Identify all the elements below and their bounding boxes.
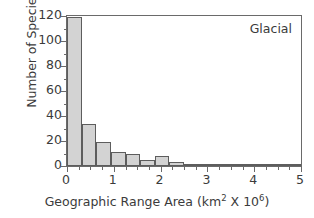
panel-annotation: Glacial xyxy=(250,21,292,36)
x-axis-minor-tick xyxy=(90,166,91,170)
x-axis-minor-tick xyxy=(172,166,173,170)
x-axis-minor-tick xyxy=(137,166,138,170)
x-axis-tick-label: 4 xyxy=(241,172,265,187)
x-axis-minor-tick xyxy=(243,166,244,170)
x-axis-minor-tick xyxy=(126,166,127,170)
x-axis-minor-tick xyxy=(289,166,290,170)
y-axis-tick-label: 80 xyxy=(32,59,62,71)
histogram-bar xyxy=(140,160,155,166)
histogram-bar xyxy=(155,156,170,166)
y-axis-tick xyxy=(61,16,67,17)
y-axis-minor-tick xyxy=(64,54,68,55)
x-axis-tick-label: 3 xyxy=(194,172,218,187)
x-axis-title-text: X 10 xyxy=(227,194,259,209)
x-axis-minor-tick xyxy=(219,166,220,170)
x-axis-minor-tick xyxy=(149,166,150,170)
x-axis-tick-label: 5 xyxy=(288,172,312,187)
x-axis-tick-label: 1 xyxy=(101,172,125,187)
histogram-bar xyxy=(111,152,126,166)
y-axis-tick xyxy=(61,91,67,92)
x-axis-title-text: ) xyxy=(264,194,269,209)
y-axis-minor-tick xyxy=(64,154,68,155)
bar-series xyxy=(67,16,301,166)
y-axis-minor-tick xyxy=(64,104,68,105)
histogram-bar xyxy=(67,17,82,166)
histogram-bar xyxy=(82,124,97,167)
histogram-figure: Number of Species 020406080100120 Glacia… xyxy=(0,0,314,218)
histogram-bar xyxy=(272,164,287,166)
x-axis-tick-labels: 012345 xyxy=(66,172,300,190)
histogram-bar xyxy=(257,164,272,167)
y-axis-tick-label: 20 xyxy=(32,134,62,146)
x-axis-title-text: Geographic Range Area (km xyxy=(45,194,222,209)
plot-area: Glacial xyxy=(66,15,302,167)
x-axis-minor-tick xyxy=(79,166,80,170)
y-axis-tick-label: 40 xyxy=(32,109,62,121)
histogram-bar xyxy=(96,142,111,166)
x-axis-minor-tick xyxy=(231,166,232,170)
x-axis-minor-tick xyxy=(278,166,279,170)
y-axis-tick-label: 120 xyxy=(32,9,62,21)
x-axis-tick-label: 2 xyxy=(148,172,172,187)
histogram-bar xyxy=(126,154,141,167)
y-axis-tick-label: 100 xyxy=(32,34,62,46)
y-axis-tick xyxy=(61,141,67,142)
x-axis-minor-tick xyxy=(266,166,267,170)
y-axis-tick-label: 60 xyxy=(32,84,62,96)
y-axis-tick-label: 0 xyxy=(32,159,62,171)
y-axis-tick xyxy=(61,41,67,42)
x-axis-minor-tick xyxy=(184,166,185,170)
x-axis-tick-label: 0 xyxy=(54,172,78,187)
y-axis-minor-tick xyxy=(64,29,68,30)
y-axis-minor-tick xyxy=(64,129,68,130)
x-axis-title: Geographic Range Area (km2 X 106) xyxy=(0,194,314,209)
y-axis-tick xyxy=(61,116,67,117)
x-axis-minor-tick xyxy=(196,166,197,170)
y-axis-tick xyxy=(61,66,67,67)
y-axis-minor-tick xyxy=(64,79,68,80)
histogram-bar xyxy=(213,164,228,166)
x-axis-minor-tick xyxy=(102,166,103,170)
histogram-bar xyxy=(199,164,214,166)
